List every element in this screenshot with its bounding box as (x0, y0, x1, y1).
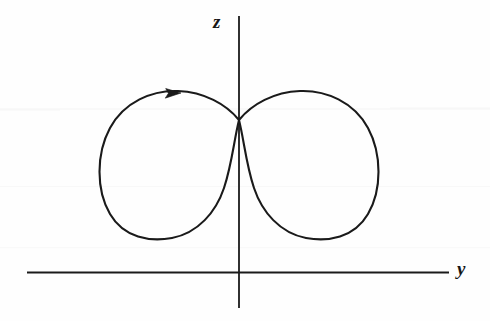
figure-container: z y (0, 0, 490, 321)
y-axis-label: y (457, 258, 465, 280)
scan-artifacts (0, 108, 490, 248)
figure-eight-diagram (0, 0, 490, 321)
right-loop-path (239, 91, 379, 239)
z-axis-label: z (213, 11, 220, 33)
left-loop-path (100, 91, 240, 239)
